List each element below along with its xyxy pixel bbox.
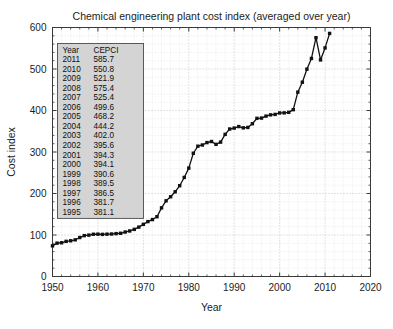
table-cell-year: 1996 — [63, 198, 82, 207]
data-point-marker — [60, 241, 63, 244]
data-point-marker — [151, 218, 154, 221]
ytick-label: 200 — [30, 188, 47, 199]
table-cell-year: 2005 — [63, 112, 82, 121]
data-point-marker — [173, 190, 176, 193]
table-cell-cepci: 395.6 — [94, 141, 115, 150]
table-cell-year: 1998 — [63, 179, 82, 188]
table-cell-cepci: 444.2 — [94, 122, 115, 131]
table-cell-cepci: 381.1 — [94, 208, 115, 217]
data-point-marker — [69, 239, 72, 242]
ytick-label: 0 — [41, 271, 47, 282]
data-point-marker — [328, 32, 331, 35]
xtick-label: 1960 — [87, 282, 110, 293]
table-cell-year: 2006 — [63, 103, 82, 112]
xtick-label: 2020 — [359, 282, 382, 293]
xtick-label: 1980 — [178, 282, 201, 293]
table-cell-cepci: 575.4 — [94, 84, 115, 93]
table-cell-year: 2009 — [63, 74, 82, 83]
data-point-marker — [233, 126, 236, 129]
data-point-marker — [155, 215, 158, 218]
ytick-label: 500 — [30, 64, 47, 75]
data-point-marker — [260, 116, 263, 119]
data-point-marker — [192, 152, 195, 155]
table-cell-cepci: 550.8 — [94, 65, 115, 74]
data-point-marker — [314, 36, 317, 39]
data-point-marker — [292, 108, 295, 111]
cepci-line-chart: 1950196019701980199020002010202001002003… — [0, 0, 393, 329]
data-point-marker — [223, 133, 226, 136]
data-point-marker — [282, 111, 285, 114]
table-cell-year: 2002 — [63, 141, 82, 150]
data-point-marker — [201, 143, 204, 146]
table-cell-year: 1999 — [63, 170, 82, 179]
table-cell-year: 2008 — [63, 84, 82, 93]
xtick-label: 1990 — [223, 282, 246, 293]
data-point-marker — [251, 122, 254, 125]
data-point-marker — [319, 58, 322, 61]
data-point-marker — [123, 230, 126, 233]
ytick-label: 600 — [30, 22, 47, 33]
table-cell-cepci: 386.5 — [94, 189, 115, 198]
data-point-marker — [210, 140, 213, 143]
data-point-marker — [264, 114, 267, 117]
data-point-marker — [78, 236, 81, 239]
chart-title: Chemical engineering plant cost index (a… — [73, 10, 351, 22]
table-cell-cepci: 468.2 — [94, 112, 115, 121]
data-point-marker — [246, 126, 249, 129]
table-cell-cepci: 521.9 — [94, 74, 115, 83]
table-cell-year: 1995 — [63, 208, 82, 217]
xtick-label: 2000 — [269, 282, 292, 293]
table-cell-cepci: 402.0 — [94, 131, 115, 140]
table-cell-year: 2001 — [63, 151, 82, 160]
data-point-marker — [214, 143, 217, 146]
x-axis-label: Year — [201, 301, 223, 313]
data-point-marker — [219, 140, 222, 143]
table-cell-cepci: 381.7 — [94, 198, 115, 207]
table-header-year: Year — [63, 46, 80, 55]
data-point-marker — [296, 90, 299, 93]
xtick-label: 1970 — [132, 282, 155, 293]
ytick-label: 100 — [30, 230, 47, 241]
data-point-marker — [310, 57, 313, 60]
table-header-cepci: CEPCI — [94, 46, 119, 55]
table-cell-year: 2004 — [63, 122, 82, 131]
data-point-marker — [146, 220, 149, 223]
data-point-marker — [273, 113, 276, 116]
data-point-marker — [169, 195, 172, 198]
xtick-label: 1950 — [41, 282, 64, 293]
data-point-marker — [305, 67, 308, 70]
table-cell-year: 2010 — [63, 65, 82, 74]
data-point-marker — [128, 229, 131, 232]
table-cell-year: 2011 — [63, 55, 81, 64]
data-point-marker — [114, 232, 117, 235]
data-point-marker — [287, 111, 290, 114]
table-cell-cepci: 585.7 — [94, 55, 115, 64]
data-point-marker — [137, 225, 140, 228]
data-point-marker — [64, 240, 67, 243]
table-cell-cepci: 394.3 — [94, 151, 115, 160]
data-point-marker — [96, 232, 99, 235]
y-axis-label: Cost index — [5, 126, 17, 176]
data-point-marker — [74, 238, 77, 241]
table-cell-year: 2003 — [63, 131, 82, 140]
data-point-marker — [51, 244, 54, 247]
table-cell-year: 1997 — [63, 189, 82, 198]
xtick-label: 2010 — [314, 282, 337, 293]
data-point-marker — [323, 46, 326, 49]
data-point-marker — [55, 241, 58, 244]
data-point-marker — [101, 233, 104, 236]
table-cell-year: 2007 — [63, 93, 82, 102]
data-point-marker — [142, 223, 145, 226]
data-point-marker — [160, 206, 163, 209]
ytick-label: 400 — [30, 105, 47, 116]
data-point-marker — [133, 228, 136, 231]
data-point-marker — [255, 117, 258, 120]
data-point-marker — [205, 141, 208, 144]
data-point-marker — [187, 166, 190, 169]
data-point-marker — [110, 232, 113, 235]
data-point-marker — [92, 233, 95, 236]
data-point-marker — [237, 125, 240, 128]
ytick-label: 300 — [30, 147, 47, 158]
data-point-marker — [278, 111, 281, 114]
data-point-marker — [178, 184, 181, 187]
